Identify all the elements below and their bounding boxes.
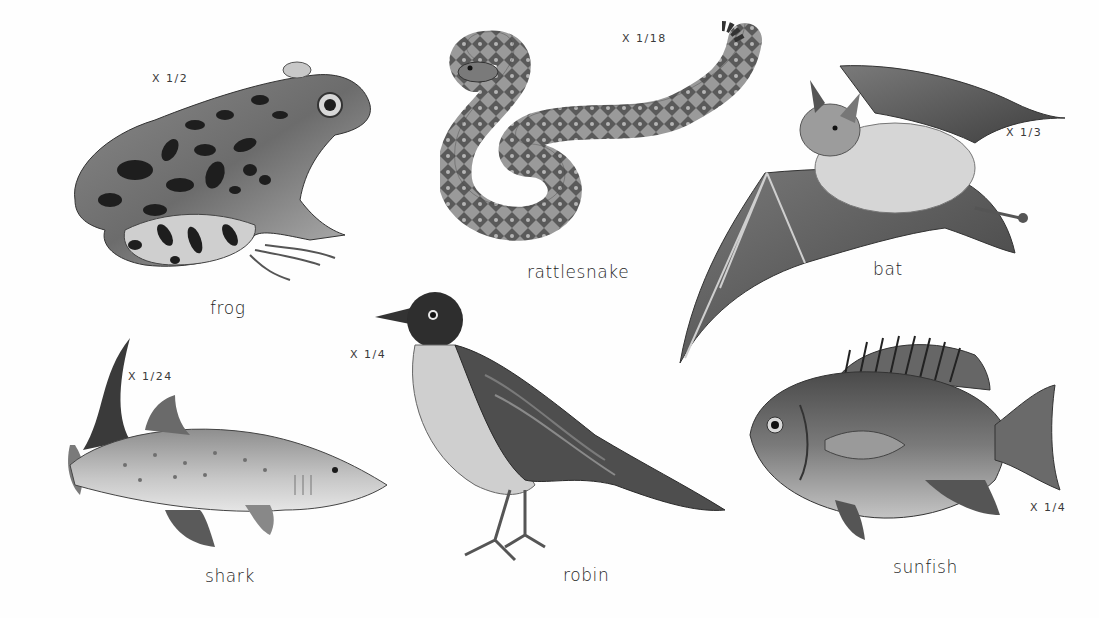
frog-illustration — [65, 60, 380, 285]
bat-illustration — [675, 58, 1070, 373]
sunfish-illustration — [745, 330, 1065, 545]
shark-illustration — [65, 335, 395, 555]
frog-name-label: frog — [210, 298, 246, 318]
rattlesnake-name-label: rattlesnake — [527, 262, 629, 282]
sunfish-scale-label: X 1/4 — [1030, 501, 1066, 514]
frog-scale-label: X 1/2 — [152, 72, 188, 85]
robin-illustration — [375, 285, 730, 580]
robin-scale-label: X 1/4 — [350, 348, 386, 361]
bat-scale-label: X 1/3 — [1006, 126, 1042, 139]
robin-name-label: robin — [563, 565, 609, 585]
sunfish-name-label: sunfish — [893, 557, 958, 577]
illustration-plate: X 1/2 frog X 1/18 rattlesnake — [0, 0, 1099, 618]
shark-name-label: shark — [205, 566, 255, 586]
rattlesnake-scale-label: X 1/18 — [622, 32, 667, 45]
bat-name-label: bat — [873, 259, 903, 279]
shark-scale-label: X 1/24 — [128, 370, 173, 383]
